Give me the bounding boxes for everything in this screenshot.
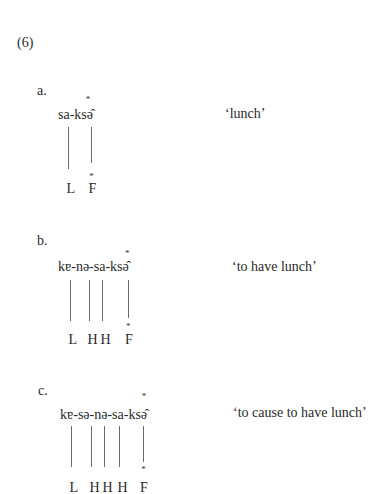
accent-star-icon: * [141, 465, 146, 474]
association-line [119, 426, 120, 467]
word-form: kɐ-sə-nə-sa-ksə̂ [60, 408, 147, 422]
association-line [70, 280, 71, 321]
word-form: sa-ksə̂ [58, 108, 93, 122]
tone-label: L [70, 481, 79, 494]
association-line [102, 280, 103, 321]
example-label: c. [38, 384, 48, 398]
tone-label: L [67, 182, 76, 196]
tone-label: H [118, 481, 128, 494]
tone-label: H [88, 333, 98, 347]
tone-label: F [140, 481, 148, 494]
association-line [104, 426, 105, 467]
example-label: a. [37, 84, 47, 98]
example-number: (6) [17, 36, 33, 50]
tone-label: F [125, 333, 133, 347]
tone-label: L [69, 333, 78, 347]
tone-label: H [103, 481, 113, 494]
tone-label: F [89, 182, 97, 196]
association-line [89, 280, 90, 321]
word-form: kɐ-nə-sa-ksə̂ [58, 260, 129, 274]
tone-label: H [90, 481, 100, 494]
gloss: ‘lunch’ [225, 107, 265, 121]
accent-star-icon: * [86, 95, 91, 104]
association-line [71, 426, 72, 467]
association-line [68, 127, 69, 169]
example-label: b. [37, 234, 48, 248]
association-line [91, 426, 92, 467]
accent-star-icon: * [89, 172, 94, 181]
accent-star-icon: * [125, 249, 130, 258]
tone-label: H [101, 333, 111, 347]
association-line [128, 280, 129, 318]
accent-star-icon: * [142, 392, 147, 401]
association-line [143, 426, 144, 462]
gloss: ‘to have lunch’ [232, 260, 317, 274]
gloss: ‘to cause to have lunch’ [233, 406, 367, 420]
accent-star-icon: * [126, 322, 131, 331]
association-line [91, 127, 92, 163]
